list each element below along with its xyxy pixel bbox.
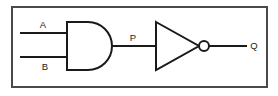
circuit-canvas: A B P Q	[0, 0, 278, 96]
label-output-q: Q	[250, 40, 257, 51]
logic-circuit-diagram: A B P Q	[0, 0, 278, 96]
label-intermediate-p: P	[130, 32, 136, 43]
not-gate-body	[156, 22, 199, 70]
inversion-bubble-icon	[199, 41, 209, 51]
and-gate-body	[67, 22, 112, 70]
label-input-b: B	[42, 61, 48, 72]
label-input-a: A	[40, 19, 47, 30]
